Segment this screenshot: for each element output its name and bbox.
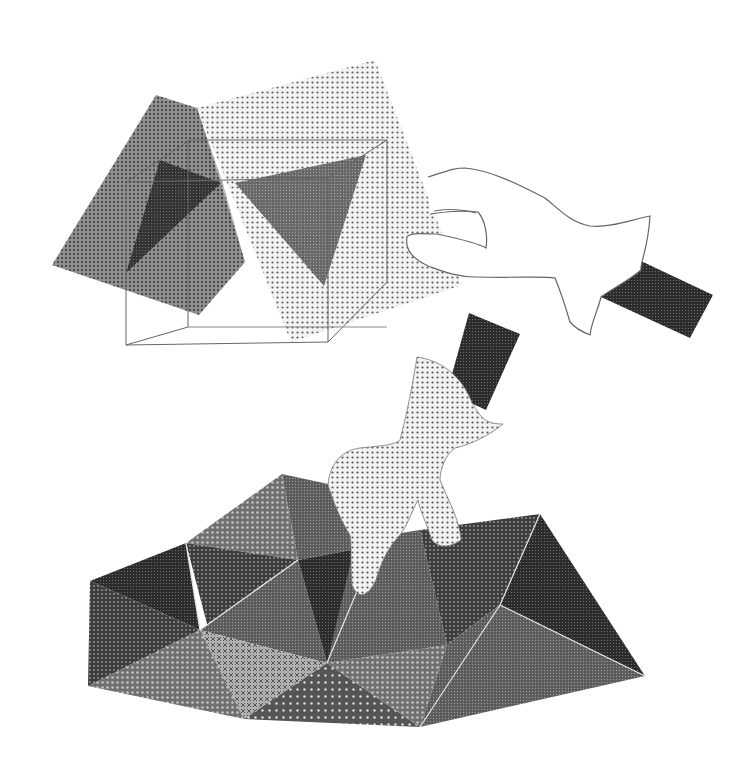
illustration-svg (0, 0, 755, 775)
illustration-canvas (0, 0, 755, 775)
outline-hand (407, 168, 650, 335)
